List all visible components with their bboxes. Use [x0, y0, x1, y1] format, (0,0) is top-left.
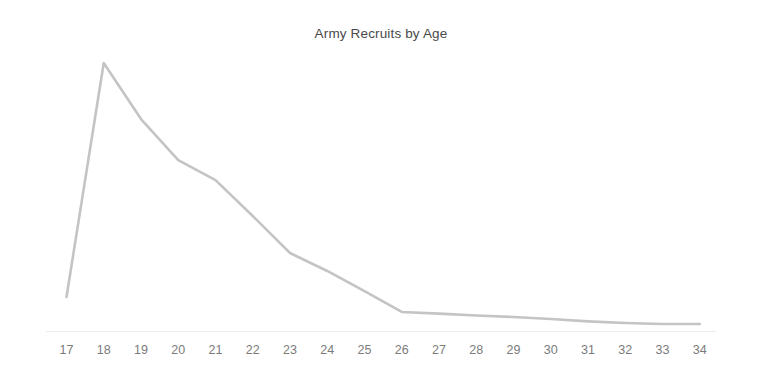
line-chart-svg — [0, 0, 762, 382]
chart-figure: Army Recruits by Age 1718192021222324252… — [0, 0, 762, 382]
data-series-line — [67, 63, 700, 324]
plot-area — [0, 0, 762, 382]
